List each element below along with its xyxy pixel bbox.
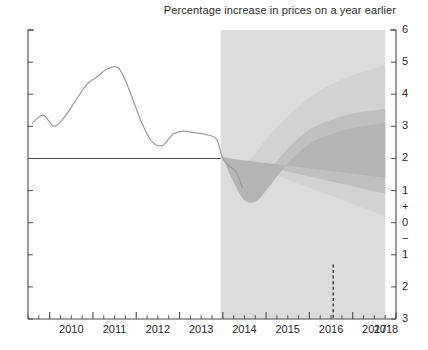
x-axis-tick-label: 2011 [93,323,137,335]
y-axis-tick-label: − [402,232,426,244]
y-axis-tick-label: 1 [402,184,426,196]
y-axis-tick-label: 3 [402,119,426,131]
chart-plot-area [0,0,428,350]
x-axis-tick-label: 2014 [222,323,266,335]
x-axis-tick-label: 2015 [266,323,310,335]
y-axis-tick-label: 1 [402,248,426,260]
y-axis-tick-label: 0 [402,216,426,228]
y-axis-tick-label: 6 [402,23,426,35]
inflation-fan-chart: Percentage increase in prices on a year … [0,0,428,350]
y-axis-tick-label: + [402,200,426,212]
x-axis-tick-label: 2016 [309,323,353,335]
y-axis-tick-label: 2 [402,151,426,163]
x-axis-tick-label: 2013 [179,323,223,335]
y-axis-tick-label: 2 [402,280,426,292]
history-line-series [32,67,242,188]
x-axis-tick-label: 2012 [136,323,180,335]
y-axis-tick-label: 5 [402,55,426,67]
x-axis-tick-label: 2010 [49,323,93,335]
x-axis-tick-label: 2018 [364,323,408,335]
y-axis-tick-label: 4 [402,87,426,99]
